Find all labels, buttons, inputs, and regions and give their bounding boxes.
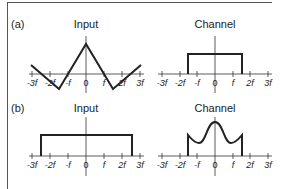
svg-text:-f: -f [65, 160, 72, 170]
panel-title: Channel [195, 18, 236, 30]
svg-text:f: f [232, 78, 236, 88]
svg-text:-3f: -3f [27, 160, 39, 170]
x-tick-labels: -3f -2f -f 0 f 2f 3f [157, 160, 274, 170]
panel-a-channel: Channel -3f -2f -f 0 f 2f 3f [157, 18, 274, 93]
svg-text:0: 0 [212, 160, 217, 170]
svg-text:0: 0 [83, 78, 88, 88]
svg-text:f: f [103, 160, 107, 170]
panel-label-a: (a) [11, 18, 24, 30]
figure: (a) Input -3f -2f -f 0 f 2f 3f [0, 0, 285, 189]
svg-text:-2f: -2f [45, 160, 57, 170]
svg-text:-2f: -2f [45, 78, 57, 88]
panel-title: Input [74, 102, 98, 114]
panel-title: Channel [195, 102, 236, 114]
svg-text:2f: 2f [117, 160, 127, 170]
svg-text:-3f: -3f [27, 78, 39, 88]
panel-title: Input [74, 18, 98, 30]
svg-text:3f: 3f [264, 78, 273, 88]
figure-canvas: (a) Input -3f -2f -f 0 f 2f 3f [0, 0, 285, 189]
svg-text:3f: 3f [136, 160, 145, 170]
panel-a-input: Input -3f -2f -f 0 f 2f 3f [27, 18, 146, 93]
svg-text:3f: 3f [136, 78, 145, 88]
panel-b-channel: Channel -3f -2f -f 0 f 2f 3f [157, 102, 274, 176]
svg-text:0: 0 [83, 160, 88, 170]
svg-text:2f: 2f [245, 160, 255, 170]
x-tick-labels: -3f -2f -f 0 f 2f 3f [27, 78, 146, 88]
svg-text:-3f: -3f [157, 78, 169, 88]
x-tick-labels: -3f -2f -f 0 f 2f 3f [27, 160, 146, 170]
x-tick-labels: -3f -2f -f 0 f 2f 3f [157, 78, 274, 88]
input-rect-curve [41, 135, 132, 156]
svg-text:-f: -f [194, 78, 201, 88]
svg-text:-3f: -3f [157, 160, 169, 170]
svg-text:-2f: -2f [175, 78, 187, 88]
svg-text:-f: -f [194, 160, 201, 170]
svg-text:0: 0 [212, 78, 217, 88]
panel-label-b: (b) [11, 102, 24, 114]
svg-text:f: f [232, 160, 236, 170]
svg-text:2f: 2f [245, 78, 255, 88]
svg-text:-2f: -2f [175, 160, 187, 170]
svg-text:2f: 2f [117, 78, 127, 88]
panel-b-input: Input -3f -2f -f 0 f 2f 3f [27, 102, 146, 176]
svg-text:-f: -f [65, 78, 72, 88]
svg-text:3f: 3f [264, 160, 273, 170]
